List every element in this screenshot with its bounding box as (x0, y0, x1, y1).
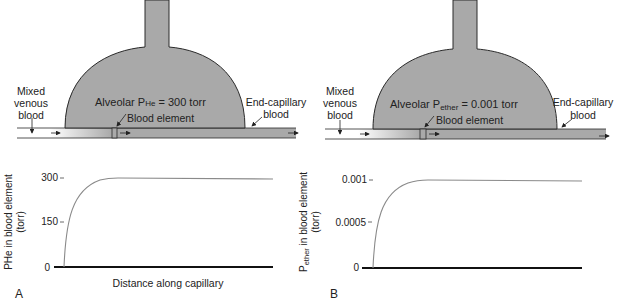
pether-curve (373, 180, 582, 268)
panel-b-diagram: Mixed venous blood Alveolar Pether = 0.0… (323, 0, 614, 139)
pointer-arrow-icon (252, 117, 262, 126)
figure: Mixed venous blood Alveolar PHe = 300 to… (0, 0, 620, 303)
alveolus (65, 0, 245, 128)
x-axis-label: Distance along capillary (113, 277, 225, 289)
blood-element-box (420, 129, 426, 139)
end-capillary-label-1: End-capillary (553, 96, 614, 108)
mixed-venous-label-2: venous (323, 97, 357, 109)
blood-element-label: Blood element (436, 114, 503, 126)
y-axis-unit: (torr) (15, 211, 26, 233)
end-capillary-label-2: blood (570, 109, 596, 121)
end-capillary-label-2: blood (263, 108, 289, 120)
y-tick-0.0005: 0.0005 (335, 217, 366, 228)
y-tick-0: 0 (44, 262, 50, 273)
mixed-venous-label-2: venous (14, 97, 48, 109)
blood-element-box (112, 128, 117, 138)
venous-gradient (325, 129, 420, 139)
y-tick-0: 0 (353, 262, 359, 273)
y-tick-0.001: 0.001 (342, 174, 367, 185)
y-tick-300: 300 (41, 172, 58, 183)
end-capillary-label-1: End-capillary (246, 96, 307, 108)
panel-a-diagram: Mixed venous blood Alveolar PHe = 300 to… (14, 0, 307, 138)
blood-element-label: Blood element (127, 112, 194, 124)
panel-b-chart: Pether in blood element (torr) 0.001 0.0… (298, 172, 582, 301)
venous-gradient (17, 128, 112, 138)
panel-a-chart: PHe in blood element (torr) 300 150 0 Di… (3, 172, 273, 301)
mixed-venous-label-1: Mixed (326, 85, 354, 97)
panel-letter-a: A (15, 287, 23, 301)
y-tick-150: 150 (41, 216, 58, 227)
phe-curve (64, 178, 273, 267)
y-axis-label: PHe in blood element (3, 174, 14, 270)
mixed-venous-label-3: blood (327, 109, 353, 121)
y-axis-unit: (torr) (310, 211, 321, 233)
panel-letter-b: B (330, 287, 338, 301)
mixed-venous-label-3: blood (18, 109, 44, 121)
mixed-venous-label-1: Mixed (17, 85, 45, 97)
